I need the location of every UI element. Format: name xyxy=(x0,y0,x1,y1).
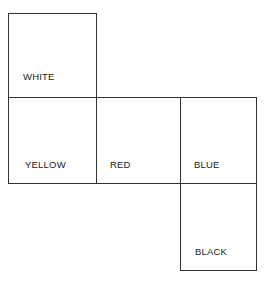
face-black: BLACK xyxy=(180,183,257,271)
face-label-yellow: YELLOW xyxy=(25,159,66,170)
face-label-red: RED xyxy=(110,159,131,170)
face-label-black: BLACK xyxy=(195,246,227,257)
face-red: RED xyxy=(96,97,181,184)
face-yellow: YELLOW xyxy=(8,97,97,184)
face-white: WHITE xyxy=(8,13,97,98)
face-label-blue: BLUE xyxy=(194,159,220,170)
face-label-white: WHITE xyxy=(23,71,55,82)
face-blue: BLUE xyxy=(180,97,257,184)
